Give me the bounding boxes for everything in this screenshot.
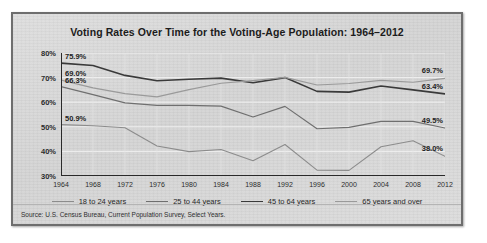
chart-canvas (61, 53, 445, 176)
plot-area: 80%70%60%50%40%30%1964196819721976198019… (61, 53, 445, 176)
x-axis-tick-label: 1984 (213, 181, 229, 188)
x-axis-tick-label: 1968 (85, 181, 101, 188)
series-end-value-label: 49.5% (422, 116, 443, 125)
series-end-value-label: 63.4% (422, 81, 443, 90)
series-start-value-label: 50.9% (65, 113, 86, 122)
series-end-value-label: 69.7% (422, 66, 443, 75)
y-axis-tick-label: 50% (41, 122, 56, 131)
legend-swatch-icon (335, 201, 357, 202)
legend-swatch-icon (52, 201, 74, 202)
source-note: Source: U.S. Census Bureau, Current Popu… (21, 211, 225, 218)
y-axis-tick-label: 60% (41, 98, 56, 107)
chart-title: Voting Rates Over Time for the Voting-Ag… (13, 26, 461, 38)
x-axis-tick-label: 2000 (341, 181, 357, 188)
x-axis-tick-label: 2008 (405, 181, 421, 188)
y-axis-tick-label: 80% (41, 49, 56, 58)
x-axis-tick-label: 1988 (245, 181, 261, 188)
x-axis-tick-label: 2012 (437, 181, 453, 188)
series-start-value-label: 69.0% (65, 69, 86, 78)
legend-swatch-icon (241, 201, 263, 202)
x-axis-tick-label: 1972 (117, 181, 133, 188)
series-start-value-label: 75.9% (65, 52, 86, 61)
x-axis-tick-label: 1964 (53, 181, 69, 188)
chart-figure: Voting Rates Over Time for the Voting-Ag… (11, 12, 463, 226)
x-axis-tick-label: 1976 (149, 181, 165, 188)
chart-svg (61, 53, 445, 176)
x-axis-tick-label: 1996 (309, 181, 325, 188)
series-end-value-label: 38.0% (422, 144, 443, 153)
source-divider (13, 204, 461, 205)
x-axis-tick-label: 1980 (181, 181, 197, 188)
y-axis-tick-label: 70% (41, 73, 56, 82)
x-axis-tick-label: 1992 (277, 181, 293, 188)
y-axis-tick-label: 40% (41, 147, 56, 156)
y-axis-tick-label: 30% (41, 172, 56, 181)
x-axis-tick-label: 2004 (373, 181, 389, 188)
legend-swatch-icon (146, 201, 168, 202)
